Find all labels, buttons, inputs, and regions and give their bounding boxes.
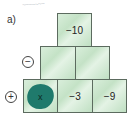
pyramid-cell-middle-right (75, 46, 110, 80)
cell-value: −9 (104, 91, 115, 102)
pyramid-cell-bottom-left: x (23, 79, 58, 113)
exercise-label: a) (7, 14, 16, 25)
unknown-variable: x (38, 92, 43, 102)
cell-value: −10 (66, 25, 83, 36)
plus-operator-icon: + (5, 91, 17, 103)
minus-operator-icon: − (22, 56, 34, 68)
scribble-text: ~~~~~~~ (22, 0, 82, 10)
pyramid-cell-top: −10 (57, 13, 92, 47)
unknown-blob-icon: x (25, 82, 56, 111)
pyramid-cell-bottom-right: −9 (92, 79, 127, 113)
pyramid-cell-bottom-middle: −3 (57, 79, 93, 113)
cell-value: −3 (69, 91, 80, 102)
pyramid-cell-middle-left (40, 46, 76, 80)
